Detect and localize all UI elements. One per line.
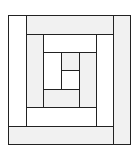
outer-bottom-strip (8, 126, 114, 145)
ring2-bottom-strip (26, 107, 97, 127)
outer-left-strip (8, 15, 27, 127)
center-bottom-square (61, 70, 80, 90)
ring3-bottom-strip (43, 89, 80, 108)
outer-right-strip (113, 15, 131, 145)
ring3-left-strip (43, 52, 62, 90)
ring2-top-strip (43, 34, 97, 53)
center-top-square (61, 52, 80, 71)
ring2-left-strip (26, 34, 44, 108)
outer-top-strip (26, 15, 114, 35)
ring2-right-strip (96, 34, 114, 127)
ring3-right-strip (79, 52, 97, 108)
log-cabin-block-diagram (0, 0, 139, 157)
